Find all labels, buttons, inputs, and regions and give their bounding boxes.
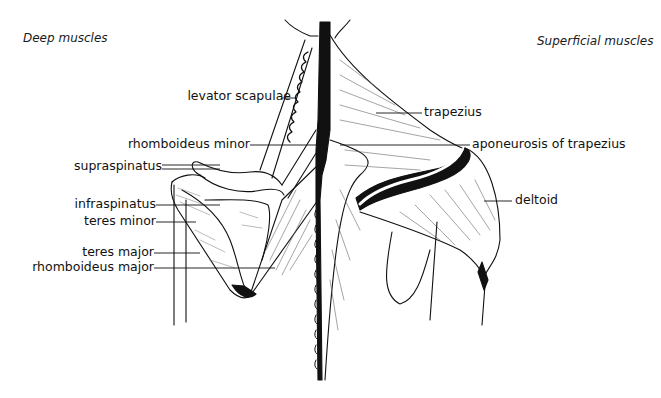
muscle-diagram: Deep muscles Superficial muscles levator… [0, 0, 661, 398]
right-arm-line-outer [482, 285, 485, 325]
spine-column [316, 22, 330, 380]
trapezius-lower-edge [325, 140, 368, 380]
label-deltoid: deltoid [515, 193, 558, 207]
neck-line-left [285, 20, 318, 36]
deltoid-lower-edge [360, 212, 485, 278]
axilla-curve [387, 232, 430, 304]
label-infraspinatus: infraspinatus [75, 197, 156, 211]
label-levator-scapulae: levator scapulae [187, 89, 291, 103]
rhomboideus-major-edge [250, 165, 318, 295]
label-supraspinatus: supraspinatus [74, 159, 162, 173]
deltoid-outer-edge [465, 148, 500, 275]
deep-muscles-title: Deep muscles [23, 31, 108, 45]
right-arm-line-inner [430, 222, 437, 320]
label-rhomboideus-major: rhomboideus major [32, 260, 154, 274]
superficial-muscles-title: Superficial muscles [537, 34, 653, 48]
levator-scapulae-edge-outer [260, 40, 305, 170]
levator-scapulae-edge-inner [272, 48, 312, 178]
neck-line-right [335, 20, 350, 38]
leader-lines [154, 98, 512, 268]
label-aponeurosis-of-trapezius: aponeurosis of trapezius [472, 137, 626, 151]
label-rhomboideus-minor: rhomboideus minor [128, 137, 250, 151]
label-teres-minor: teres minor [84, 214, 156, 228]
label-trapezius: trapezius [424, 105, 482, 119]
label-teres-major: teres major [82, 245, 154, 259]
